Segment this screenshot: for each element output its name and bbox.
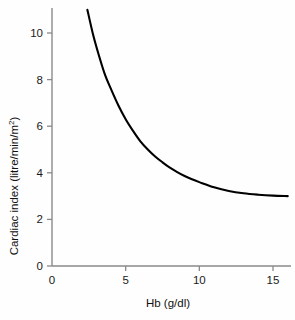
y-axis-title: Cardiac index (litre/min/m2): [7, 117, 20, 256]
y-tick-label: 10: [30, 27, 43, 39]
y-tick-label: 0: [37, 260, 43, 272]
x-tick-label: 0: [49, 274, 55, 286]
data-curve-cardiac-index: [87, 10, 287, 196]
y-axis-title-main: Cardiac index (litre/min/m: [8, 125, 20, 255]
y-tick-label: 4: [37, 167, 44, 179]
y-axis-title-close: ): [8, 117, 20, 121]
x-tick-label: 10: [193, 274, 206, 286]
x-tick-group: 051015: [49, 266, 280, 286]
x-tick-label: 15: [267, 274, 280, 286]
x-axis-title: Hb (g/dl): [146, 297, 190, 309]
y-tick-label: 6: [37, 120, 43, 132]
chart-plot-area: 0246810 051015 Hb (g/dl) Cardiac index (…: [0, 0, 295, 320]
x-tick-label: 5: [122, 274, 128, 286]
y-tick-label: 2: [37, 213, 43, 225]
y-tick-label: 8: [37, 74, 43, 86]
chart-figure: 0246810 051015 Hb (g/dl) Cardiac index (…: [0, 0, 295, 320]
y-tick-group: 0246810: [30, 27, 52, 272]
